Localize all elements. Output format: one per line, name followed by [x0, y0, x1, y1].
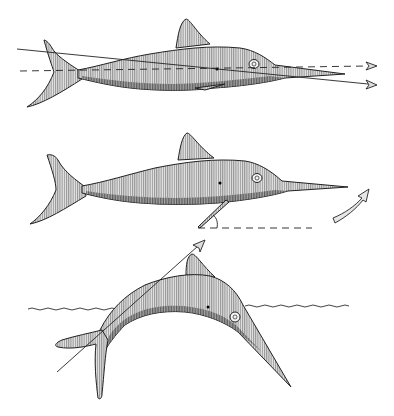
eye [230, 312, 240, 322]
angle-arc [213, 215, 217, 228]
curved-up-arrow-icon [333, 189, 369, 223]
tail-fin [56, 330, 108, 399]
panel-leap [28, 240, 349, 399]
tail-fin [30, 155, 86, 224]
dorsal-fin [186, 254, 215, 277]
center-of-mass-dot [219, 182, 222, 185]
panel-pectoral-fin-angle [30, 133, 369, 228]
arrowhead-icon [193, 240, 205, 252]
arrowhead-icon [366, 62, 377, 70]
diagram-canvas [0, 0, 394, 416]
panel-horizontal-swim [17, 19, 377, 107]
swordfish-diagram [0, 0, 394, 416]
tail-fin [27, 40, 82, 107]
eye [252, 174, 262, 183]
eye [249, 60, 259, 69]
fish-body [100, 275, 291, 387]
dorsal-fin [176, 19, 210, 48]
center-of-mass-dot [207, 306, 210, 309]
dorsal-fin [178, 133, 214, 160]
arrowhead-icon [366, 80, 377, 89]
